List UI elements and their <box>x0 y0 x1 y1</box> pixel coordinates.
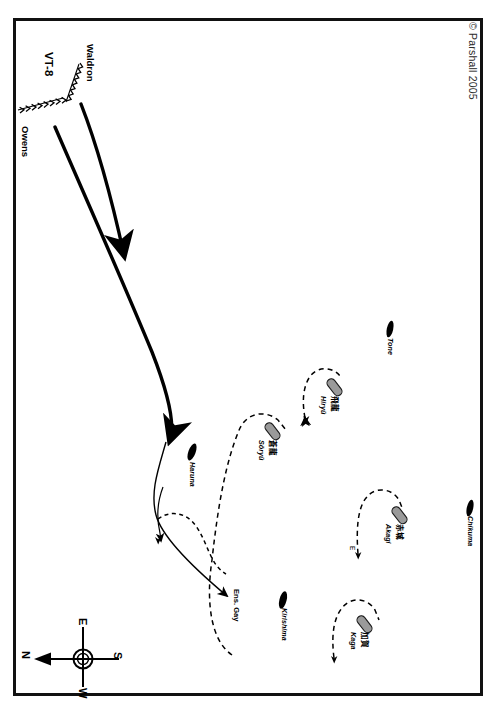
waldron-chevrons <box>67 63 83 101</box>
akagi-track <box>357 490 403 554</box>
compass-label-north: N <box>20 651 31 659</box>
compass-label-south: S <box>112 652 123 659</box>
haruna-symbol <box>186 442 199 461</box>
label-owens: Owens <box>21 126 31 157</box>
map-drawing-layer <box>0 0 500 718</box>
chikuma-symbol <box>465 499 475 517</box>
owens-attack-track <box>55 127 172 440</box>
label-kaga-kanji: 加賀 <box>360 632 368 648</box>
label-tone: Tone <box>387 338 394 355</box>
owens-chevrons <box>20 97 66 113</box>
label-waldron: Waldron <box>86 44 96 82</box>
label-akagi-track-marker: E <box>348 546 355 550</box>
copyright-notice: © Parshall 2005 <box>468 22 479 100</box>
label-soryu: Sōryū <box>258 440 265 460</box>
compass-rose-graphic <box>34 627 119 687</box>
vt8-attack-tracks <box>55 104 172 440</box>
tone-symbol <box>385 320 395 338</box>
compass-label-east: E <box>77 618 88 625</box>
label-chikuma: Chikuma <box>467 516 474 546</box>
label-hiryu: Hiryū <box>320 396 327 414</box>
label-akagi-kanji: 赤城 <box>395 524 403 540</box>
compass-label-west: W <box>77 688 88 698</box>
label-soryu-kanji: 蒼龍 <box>268 440 276 456</box>
soryu-symbol <box>263 421 281 441</box>
escort-symbols <box>186 320 475 610</box>
label-haruna: Haruna <box>189 462 196 487</box>
label-ens-gay: Ens. Gay <box>232 589 240 622</box>
label-akagi: Akagi <box>385 524 392 544</box>
hiryu-symbol <box>325 377 343 397</box>
akagi-symbol <box>390 505 408 525</box>
kirishima-symbol <box>277 590 288 609</box>
label-kaga: Kaga <box>350 632 357 650</box>
label-vt8: VT-8 <box>43 52 55 76</box>
label-kirishima: Kirishima <box>281 608 288 641</box>
label-hiryu-kanji: 飛龍 <box>330 396 338 412</box>
